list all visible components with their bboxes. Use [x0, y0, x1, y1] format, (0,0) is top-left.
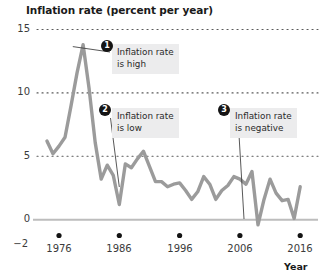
- inflation-rate-chart: Inflation rate (percent per year) 15 10 …: [0, 0, 321, 280]
- annotation-2-line1: Inflation rate: [117, 111, 174, 121]
- annotation-2-line2: is low: [117, 123, 174, 135]
- ytick-label-0: 0: [8, 213, 30, 224]
- annotation-3-line1: Inflation rate: [235, 111, 292, 121]
- xtick-label-2006: 2006: [220, 243, 260, 254]
- annotation-badge-3: 3: [218, 104, 230, 116]
- ytick-label-10: 10: [8, 86, 30, 97]
- annotation-1-line2: is high: [117, 59, 174, 71]
- plot-area: [0, 0, 321, 280]
- ytick-label-minus2: −2: [6, 238, 28, 249]
- xtick-label-1996: 1996: [160, 243, 200, 254]
- xtick-label-1986: 1986: [99, 243, 139, 254]
- xtick-label-1976: 1976: [39, 243, 79, 254]
- annotation-badge-2: 2: [99, 104, 111, 116]
- annotation-3-line2: is negative: [235, 123, 292, 135]
- xtick-label-2016: 2016: [280, 243, 320, 254]
- annotation-badge-1: 1: [101, 40, 113, 52]
- ytick-label-15: 15: [8, 23, 30, 34]
- annotation-callout-1: Inflation rate is high: [112, 44, 179, 74]
- x-tick-dots: [56, 233, 302, 238]
- annotation-1-line1: Inflation rate: [117, 47, 174, 57]
- annotation-callout-2: Inflation rate is low: [112, 108, 179, 138]
- ytick-label-5: 5: [8, 150, 30, 161]
- annotation-callout-3: Inflation rate is negative: [230, 108, 297, 138]
- x-axis-title: Year: [284, 261, 308, 272]
